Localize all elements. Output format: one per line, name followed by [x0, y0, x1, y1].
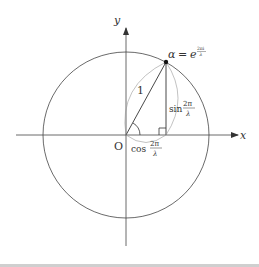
sin-label-num: 2π [183, 100, 192, 108]
radius-label: 1 [137, 84, 144, 97]
x-axis-label: x [240, 129, 247, 142]
sin-label-fn: sin [169, 104, 182, 114]
sin-label-den: λ [185, 110, 190, 118]
cos-label-num: 2π [150, 140, 159, 148]
radius-line [126, 62, 166, 135]
alpha-label: α [168, 48, 176, 61]
alpha-exponent-den: λ [199, 52, 203, 57]
origin-label: O [114, 140, 123, 153]
unit-circle-diagram: y x O α = e 2πi λ 1 sin 2π λ cos 2π λ [0, 0, 259, 267]
alpha-base-e: e [190, 48, 197, 61]
alpha-exponent: 2πi [197, 46, 205, 51]
sin-brace-arc [166, 62, 178, 135]
cos-label-den: λ [152, 150, 157, 158]
y-axis-label: y [113, 14, 121, 27]
alpha-equals: = [178, 48, 187, 61]
right-angle-marker [159, 128, 166, 135]
cos-brace-arc [126, 135, 166, 143]
angle-arc [133, 123, 140, 135]
cos-label-fn: cos [131, 144, 146, 154]
